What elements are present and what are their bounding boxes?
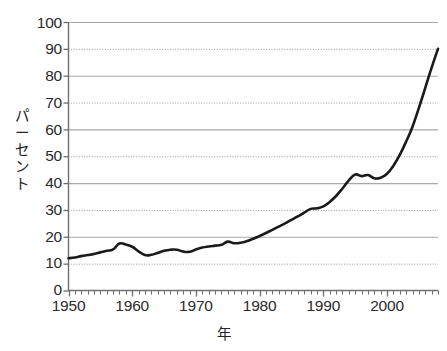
x-axis-tick-labels: 195019601970198019902000 <box>0 0 447 351</box>
chart-figure: 100 90 80 70 60 50 40 30 20 10 0 パ ー セ ン… <box>0 0 447 351</box>
x-axis-title: 年 <box>0 322 447 343</box>
x-tick-label: 1960 <box>115 298 149 314</box>
x-tick-label: 1950 <box>52 298 86 314</box>
x-tick-label: 2000 <box>370 298 404 314</box>
x-tick-label: 1970 <box>179 298 213 314</box>
x-tick-label: 1980 <box>243 298 277 314</box>
x-tick-label: 1990 <box>306 298 340 314</box>
